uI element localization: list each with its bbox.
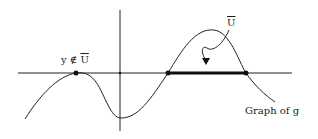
origin-point (119, 72, 121, 74)
point-label-prefix: y ∉ (61, 54, 80, 65)
set-u-label: U (227, 18, 235, 28)
pointer-arrow-line (202, 30, 229, 60)
graph-label: Graph of g (245, 106, 299, 116)
arrowhead-icon (202, 58, 210, 65)
segment-left-endpoint (166, 71, 171, 76)
point-label: y ∉ U (61, 55, 89, 65)
point-label-set: U (80, 54, 88, 65)
point-y (74, 71, 79, 76)
segment-right-endpoint (244, 71, 249, 76)
diagram-canvas (0, 0, 318, 139)
